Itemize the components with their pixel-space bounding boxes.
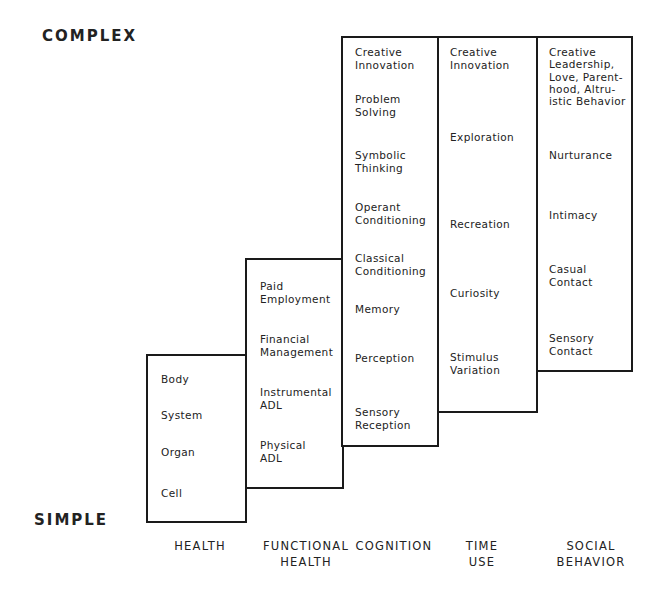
item-casual-contact: Casual Contact [538, 263, 631, 288]
item-creative-innovation-time: Creative Innovation [439, 46, 536, 71]
axis-label-simple: SIMPLE [34, 511, 108, 529]
column-label-time-use: TIME USE [438, 538, 526, 570]
box-health: Body System Organ Cell [146, 354, 247, 523]
item-creative-innovation: Creative Innovation [343, 46, 437, 71]
box-cognition: Creative Innovation Problem Solving Symb… [341, 36, 439, 447]
item-physical-adl: Physical ADL [247, 439, 342, 464]
item-classical-conditioning: Classical Conditioning [343, 252, 437, 277]
item-stimulus-variation: Stimulus Variation [439, 351, 536, 376]
item-sensory-reception: Sensory Reception [343, 406, 437, 431]
item-organ: Organ [148, 446, 245, 459]
axis-label-complex: COMPLEX [42, 27, 137, 45]
box-social-behavior: Creative Leadership, Love, Parent- hood,… [536, 36, 633, 372]
item-sensory-contact: Sensory Contact [538, 332, 631, 357]
item-creative-leadership: Creative Leadership, Love, Parent- hood,… [538, 46, 631, 107]
column-label-social-behavior: SOCIAL BEHAVIOR [541, 538, 641, 570]
item-body: Body [148, 373, 245, 386]
box-functional-health: Paid Employment Financial Management Ins… [245, 258, 344, 489]
item-financial-management: Financial Management [247, 333, 342, 358]
item-exploration: Exploration [439, 131, 536, 144]
item-perception: Perception [343, 352, 437, 365]
column-label-health: HEALTH [150, 538, 250, 554]
item-intimacy: Intimacy [538, 209, 631, 222]
item-instrumental-adl: Instrumental ADL [247, 386, 342, 411]
item-operant-conditioning: Operant Conditioning [343, 201, 437, 226]
item-problem-solving: Problem Solving [343, 93, 437, 118]
item-recreation: Recreation [439, 218, 536, 231]
item-curiosity: Curiosity [439, 287, 536, 300]
item-memory: Memory [343, 303, 437, 316]
item-paid-employment: Paid Employment [247, 280, 342, 305]
column-label-cognition: COGNITION [351, 538, 437, 554]
item-cell: Cell [148, 487, 245, 500]
item-system: System [148, 409, 245, 422]
item-symbolic-thinking: Symbolic Thinking [343, 149, 437, 174]
item-nurturance: Nurturance [538, 149, 631, 162]
column-label-functional-health: FUNCTIONAL HEALTH [258, 538, 354, 570]
box-time-use: Creative Innovation Exploration Recreati… [437, 36, 538, 413]
